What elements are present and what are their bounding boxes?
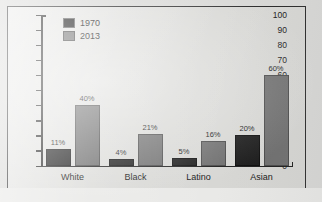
y-tick-40 bbox=[36, 105, 41, 106]
category-label-latino: Latino bbox=[186, 173, 211, 182]
bar-latino-1970 bbox=[172, 158, 197, 166]
y-tick-10 bbox=[36, 150, 41, 151]
bar-black-1970 bbox=[109, 159, 134, 165]
bar-latino-2013 bbox=[201, 141, 226, 165]
bar-white-1970 bbox=[46, 149, 71, 166]
x-axis-line bbox=[41, 166, 293, 168]
bar-value-label-black-2013: 21% bbox=[142, 124, 157, 132]
y-tick-100 bbox=[36, 15, 41, 16]
y-tick-70 bbox=[36, 60, 41, 61]
y-tick-80 bbox=[36, 45, 41, 46]
y-tick-50 bbox=[36, 90, 41, 91]
y-axis-line bbox=[41, 15, 43, 167]
chart-frame: 1970 2013 0102030405060708090100 11%40%4… bbox=[7, 6, 306, 189]
page-bottom-margin bbox=[0, 188, 322, 202]
y-tick-90 bbox=[36, 30, 41, 31]
bar-value-label-white-2013: 40% bbox=[79, 95, 94, 103]
legend-swatch-2013-icon bbox=[63, 31, 75, 41]
bar-white-2013 bbox=[75, 105, 100, 165]
y-tick-label-70: 70 bbox=[278, 56, 287, 65]
bar-value-label-latino-1970: 5% bbox=[179, 148, 190, 156]
y-tick-label-90: 90 bbox=[278, 26, 287, 35]
chart-legend: 1970 2013 bbox=[63, 18, 100, 44]
y-tick-label-80: 80 bbox=[278, 41, 287, 50]
y-axis-top-cap bbox=[41, 15, 46, 17]
bar-asian-1970 bbox=[235, 135, 260, 165]
legend-label-2013: 2013 bbox=[80, 32, 100, 41]
legend-label-1970: 1970 bbox=[80, 19, 100, 28]
bar-value-label-asian-2013: 60% bbox=[268, 65, 283, 73]
category-label-black: Black bbox=[124, 173, 146, 182]
bar-chart-figure: 1970 2013 0102030405060708090100 11%40%4… bbox=[0, 0, 322, 202]
category-label-asian: Asian bbox=[250, 173, 273, 182]
bar-value-label-black-1970: 4% bbox=[116, 149, 127, 157]
y-tick-20 bbox=[36, 135, 41, 136]
x-axis-right-cap bbox=[292, 162, 294, 167]
bar-asian-2013 bbox=[264, 75, 289, 165]
category-label-white: White bbox=[61, 173, 84, 182]
legend-swatch-1970-icon bbox=[63, 18, 75, 28]
y-tick-60 bbox=[36, 75, 41, 76]
bar-value-label-latino-2013: 16% bbox=[205, 131, 220, 139]
legend-entry-1970: 1970 bbox=[63, 18, 100, 28]
bar-value-label-asian-1970: 20% bbox=[239, 125, 254, 133]
bar-value-label-white-1970: 11% bbox=[51, 139, 65, 147]
legend-entry-2013: 2013 bbox=[63, 31, 100, 41]
y-tick-0 bbox=[36, 166, 41, 167]
y-tick-label-100: 100 bbox=[273, 11, 287, 20]
bar-black-2013 bbox=[138, 134, 163, 166]
y-tick-30 bbox=[36, 120, 41, 121]
